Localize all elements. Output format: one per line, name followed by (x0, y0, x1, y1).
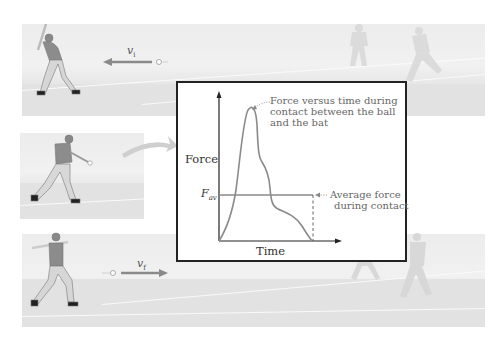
y-axis (217, 91, 222, 241)
average-force-symbol: Fav (201, 187, 217, 202)
average-force-annotation: Average force during contact (330, 189, 409, 211)
curve-annotation: Force versus time during contact between… (270, 95, 398, 128)
y-axis-label: Force (185, 152, 218, 166)
force-time-plot (0, 0, 504, 347)
curve-annotation-leader (254, 102, 270, 108)
x-axis-label: Time (256, 244, 285, 258)
x-axis (219, 239, 342, 244)
